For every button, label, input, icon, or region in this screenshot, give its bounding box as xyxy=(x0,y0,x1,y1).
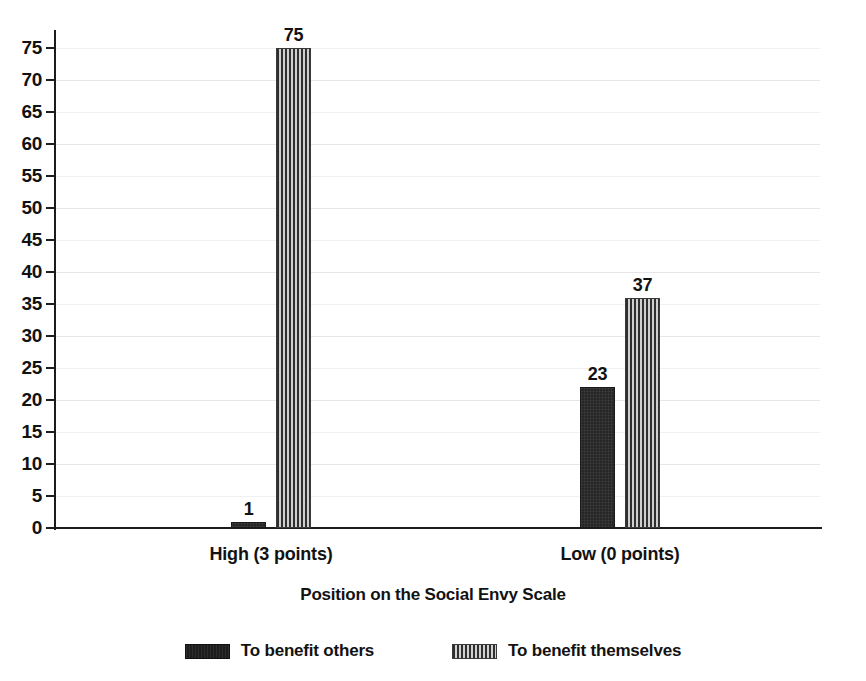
y-axis-tick-label: 35 xyxy=(2,294,42,313)
gridline xyxy=(56,112,820,113)
y-axis-tick-label: 30 xyxy=(2,326,42,345)
gridline xyxy=(56,304,820,305)
legend-swatch-solid-icon xyxy=(185,644,230,659)
y-axis-tick-label: 40 xyxy=(2,262,42,281)
gridline xyxy=(56,496,820,497)
gridline xyxy=(56,208,820,209)
y-axis-tick: 45 xyxy=(0,230,42,250)
y-axis-tick-label: 45 xyxy=(2,230,42,249)
y-axis-tick-label: 5 xyxy=(2,486,42,505)
y-axis-tick-label: 25 xyxy=(2,358,42,377)
legend-item-to-benefit-others: To benefit others xyxy=(185,641,374,661)
legend-item-to-benefit-themselves: To benefit themselves xyxy=(452,641,681,661)
y-axis-tick-label: 50 xyxy=(2,198,42,217)
gridline xyxy=(56,400,820,401)
plot-area: 1752337 xyxy=(56,48,820,528)
y-axis-tick-label: 60 xyxy=(2,134,42,153)
y-axis-tick: 25 xyxy=(0,358,42,378)
chart-legend: To benefit others To benefit themselves xyxy=(0,641,866,661)
legend-label: To benefit themselves xyxy=(508,641,681,661)
bar: 23 xyxy=(580,387,615,528)
y-axis-tick: 5 xyxy=(0,486,42,506)
x-axis-category-label: Low (0 points) xyxy=(470,545,770,563)
gridline xyxy=(56,336,820,337)
gridline xyxy=(56,240,820,241)
y-axis-tick: 50 xyxy=(0,198,42,218)
y-axis-tick: 75 xyxy=(0,38,42,58)
y-axis-tick-label: 65 xyxy=(2,102,42,121)
bar: 1 xyxy=(231,522,266,528)
y-axis-tick-group: 051015202530354045505560657075 xyxy=(0,0,56,681)
bar-chart-figure: 051015202530354045505560657075 1752337 H… xyxy=(0,0,866,681)
y-axis-tick: 55 xyxy=(0,166,42,186)
y-axis-tick-label: 10 xyxy=(2,454,42,473)
y-axis-tick: 15 xyxy=(0,422,42,442)
gridline xyxy=(56,464,820,465)
chart-title xyxy=(0,0,866,4)
gridline xyxy=(56,48,820,49)
bar: 75 xyxy=(276,48,311,528)
y-axis-tick: 10 xyxy=(0,454,42,474)
y-axis-tick-label: 75 xyxy=(2,38,42,57)
y-axis-tick: 35 xyxy=(0,294,42,314)
y-axis-tick: 40 xyxy=(0,262,42,282)
y-axis-tick: 60 xyxy=(0,134,42,154)
y-axis-tick: 70 xyxy=(0,70,42,90)
gridline xyxy=(56,432,820,433)
gridline xyxy=(56,80,820,81)
x-axis-title: Position on the Social Envy Scale xyxy=(0,585,866,605)
gridline xyxy=(56,368,820,369)
y-axis-tick: 65 xyxy=(0,102,42,122)
x-axis-category-label: High (3 points) xyxy=(121,545,421,563)
y-axis-tick-label: 15 xyxy=(2,422,42,441)
y-axis-tick: 0 xyxy=(0,518,42,538)
y-axis-tick: 30 xyxy=(0,326,42,346)
y-axis-tick: 20 xyxy=(0,390,42,410)
y-axis-tick-label: 0 xyxy=(2,518,42,537)
y-axis-tick-label: 20 xyxy=(2,390,42,409)
bar-value-label: 1 xyxy=(244,500,254,518)
legend-swatch-striped-icon xyxy=(452,644,497,659)
gridline xyxy=(56,272,820,273)
legend-label: To benefit others xyxy=(241,641,374,661)
gridline xyxy=(56,176,820,177)
gridline xyxy=(56,144,820,145)
y-axis-tick-label: 70 xyxy=(2,70,42,89)
bar: 37 xyxy=(625,298,660,528)
bar-value-label: 37 xyxy=(633,276,652,294)
bar-value-label: 75 xyxy=(284,26,303,44)
y-axis-tick-label: 55 xyxy=(2,166,42,185)
bar-value-label: 23 xyxy=(588,365,607,383)
